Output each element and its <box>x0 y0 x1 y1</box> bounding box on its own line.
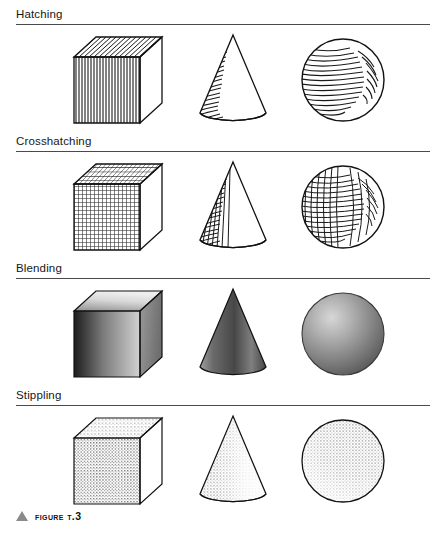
section-crosshatching: Crosshatching <box>0 133 442 260</box>
shape-cube-crosshatching <box>62 154 172 260</box>
shape-sphere-crosshatching <box>288 154 398 260</box>
triangle-marker-icon <box>16 511 28 521</box>
section-rule <box>16 278 430 279</box>
section-rule <box>16 405 430 406</box>
shape-sphere-blending <box>288 281 398 387</box>
shape-cube-blending <box>62 281 172 387</box>
shapes-row-stippling <box>0 408 442 514</box>
figure-caption: FIGURE T.3 <box>16 510 81 522</box>
shape-cone-hatching <box>178 27 288 133</box>
section-stippling: Stippling <box>0 387 442 514</box>
figure-page: Hatching <box>0 0 442 533</box>
section-hatching: Hatching <box>0 6 442 133</box>
shape-cube-stippling <box>62 408 172 514</box>
section-blending: Blending <box>0 260 442 387</box>
shapes-row-crosshatching <box>0 154 442 260</box>
figure-caption-label: FIGURE T.3 <box>35 510 81 522</box>
section-rule <box>16 24 430 25</box>
section-label-stippling: Stippling <box>0 387 442 403</box>
section-label-blending: Blending <box>0 260 442 276</box>
shapes-row-hatching <box>0 27 442 133</box>
shape-cone-stippling <box>178 408 288 514</box>
shape-sphere-hatching <box>288 27 398 133</box>
shape-cone-crosshatching <box>178 154 288 260</box>
shape-cone-blending <box>178 281 288 387</box>
shape-cube-hatching <box>62 27 172 133</box>
shapes-row-blending <box>0 281 442 387</box>
section-label-crosshatching: Crosshatching <box>0 133 442 149</box>
section-rule <box>16 151 430 152</box>
section-label-hatching: Hatching <box>0 6 442 22</box>
shape-sphere-stippling <box>288 408 398 514</box>
